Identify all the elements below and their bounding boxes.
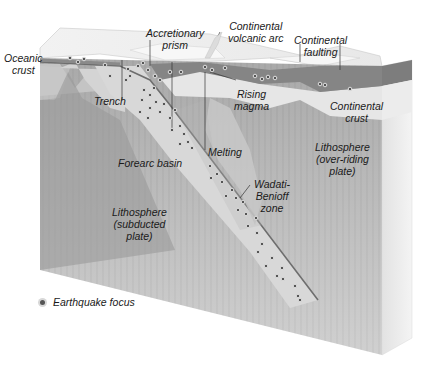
label-continental-crust: Continentalcrust	[330, 100, 383, 124]
label-oceanic-crust: Oceaniccrust	[4, 52, 43, 76]
legend: Earthquake focus	[40, 296, 135, 308]
subduction-block-diagram	[0, 0, 436, 367]
label-trench: Trench	[94, 95, 126, 107]
label-continental-faulting: Continentalfaulting	[294, 34, 347, 58]
label-melting: Melting	[208, 146, 242, 158]
label-rising-magma: Risingmagma	[234, 88, 269, 112]
legend-label: Earthquake focus	[53, 296, 135, 308]
earthquake-focus-icon	[40, 300, 45, 305]
label-forearc-basin: Forearc basin	[118, 157, 182, 169]
label-accretionary-prism: Accretionaryprism	[146, 27, 204, 51]
label-wadati-benioff-zone: Wadati-Benioffzone	[254, 178, 290, 214]
label-lithosphere-subducted: Lithosphere(subductedplate)	[112, 206, 167, 242]
label-lithosphere-overriding: Lithosphere(over-ridingplate)	[315, 141, 370, 177]
label-continental-volcanic-arc: Continentalvolcanic arc	[228, 20, 283, 44]
